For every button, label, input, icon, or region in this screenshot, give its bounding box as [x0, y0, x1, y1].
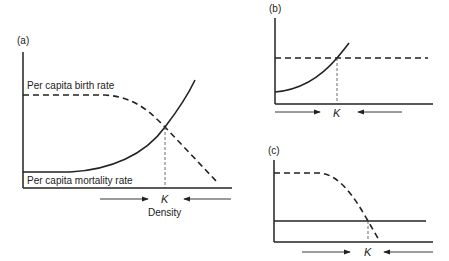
- k-label: K: [333, 107, 341, 119]
- birth-rate-label: Per capita birth rate: [27, 80, 115, 91]
- mortality-rate-label: Per capita mortality rate: [27, 175, 133, 186]
- panel-c-label: (c): [268, 145, 280, 156]
- k-label: K: [364, 246, 372, 258]
- density-dependence-diagram: (a) Per capita birth rate Per capita mor…: [0, 0, 449, 261]
- density-label: Density: [148, 207, 181, 218]
- panel-b: (b) K: [269, 3, 433, 119]
- panel-a: (a) Per capita birth rate Per capita mor…: [17, 35, 232, 218]
- panel-b-label: (b): [269, 3, 281, 14]
- mortality-rate-curve: [23, 80, 195, 172]
- panel-a-label: (a): [17, 35, 29, 46]
- birth-rate-curve: [274, 173, 379, 240]
- birth-rate-curve: [23, 95, 218, 183]
- mortality-rate-curve: [275, 43, 349, 92]
- k-label: K: [161, 193, 169, 205]
- panel-c: (c) K: [268, 145, 433, 258]
